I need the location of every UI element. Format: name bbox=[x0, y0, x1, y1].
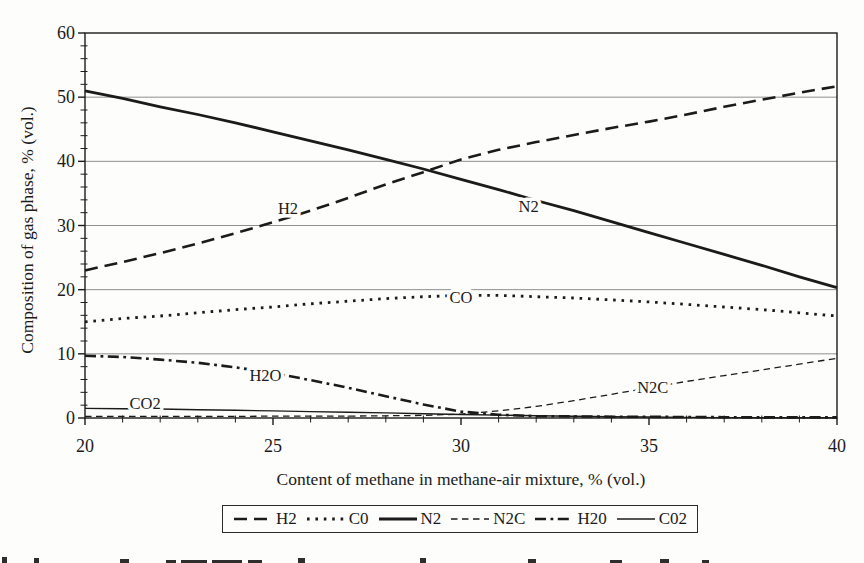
chart-legend: H2C0N2N2CH20C02 bbox=[222, 505, 698, 533]
legend-label-co: C0 bbox=[349, 509, 369, 529]
legend-swatch-h2 bbox=[233, 513, 273, 525]
y-tick-label: 60 bbox=[57, 23, 75, 43]
legend-swatch-n2c bbox=[450, 513, 490, 525]
legend-swatch-co bbox=[306, 513, 346, 525]
y-axis-title: Composition of gas phase, % (vol.) bbox=[17, 106, 38, 353]
series-label-co: CO bbox=[450, 288, 473, 307]
x-tick-label: 20 bbox=[76, 436, 94, 456]
legend-item-co: C0 bbox=[306, 509, 369, 529]
series-line-n2c bbox=[85, 358, 837, 416]
series-line-n2 bbox=[85, 91, 837, 288]
x-tick-label: 40 bbox=[828, 436, 846, 456]
legend-label-h2: H2 bbox=[276, 509, 297, 529]
legend-swatch-h2o bbox=[534, 513, 574, 525]
scanned-figure-page: 01020304050602025303540H2CON2N2CH2OCO2 C… bbox=[0, 0, 864, 563]
x-tick-label: 35 bbox=[640, 436, 658, 456]
legend-label-h2o: H20 bbox=[577, 509, 606, 529]
legend-item-n2: N2 bbox=[378, 509, 442, 529]
gas-composition-chart: 01020304050602025303540H2CON2N2CH2OCO2 C… bbox=[0, 0, 864, 563]
legend-swatch-n2 bbox=[378, 513, 418, 525]
series-label-co2: CO2 bbox=[130, 394, 161, 413]
series-label-n2c: N2C bbox=[637, 378, 668, 397]
x-tick-label: 25 bbox=[264, 436, 282, 456]
series-label-h2o: H2O bbox=[249, 366, 281, 385]
cut-off-text-fragment bbox=[0, 548, 864, 563]
legend-label-n2c: N2C bbox=[493, 509, 525, 529]
y-tick-label: 30 bbox=[57, 216, 75, 236]
y-tick-label: 20 bbox=[57, 280, 75, 300]
legend-swatch-co2 bbox=[616, 513, 656, 525]
composition-chart-svg: 01020304050602025303540H2CON2N2CH2OCO2 bbox=[0, 0, 864, 500]
legend-label-n2: N2 bbox=[421, 509, 442, 529]
series-label-n2: N2 bbox=[519, 197, 539, 216]
legend-item-n2c: N2C bbox=[450, 509, 525, 529]
legend-item-h2: H2 bbox=[233, 509, 297, 529]
y-tick-label: 50 bbox=[57, 87, 75, 107]
legend-label-co2: C02 bbox=[659, 509, 687, 529]
y-tick-label: 0 bbox=[66, 408, 75, 428]
legend-item-h2o: H20 bbox=[534, 509, 606, 529]
legend-item-co2: C02 bbox=[616, 509, 687, 529]
y-tick-label: 10 bbox=[57, 344, 75, 364]
x-axis-title: Content of methane in methane-air mixtur… bbox=[85, 469, 837, 490]
y-tick-label: 40 bbox=[57, 151, 75, 171]
x-tick-label: 30 bbox=[452, 436, 470, 456]
series-label-h2: H2 bbox=[278, 199, 298, 218]
series-line-h2o bbox=[85, 356, 837, 418]
